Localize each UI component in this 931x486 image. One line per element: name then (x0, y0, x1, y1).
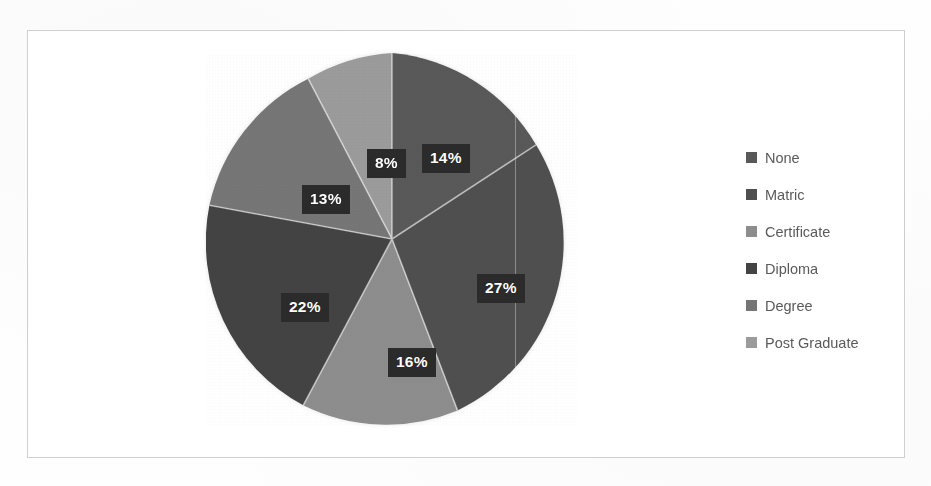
pie-slices (206, 53, 564, 425)
chart-frame: 14% 27% 16% 22% 13% 8% None Matric Certi… (27, 30, 905, 458)
legend-item-label: Post Graduate (765, 335, 859, 351)
legend-item-certificate[interactable]: Certificate (746, 213, 901, 250)
legend-item-label: Degree (765, 298, 813, 314)
legend-item-label: Matric (765, 187, 804, 203)
legend-item-post-graduate[interactable]: Post Graduate (746, 324, 901, 361)
legend-item-none[interactable]: None (746, 139, 901, 176)
data-label-post-graduate: 8% (367, 149, 406, 178)
legend-item-degree[interactable]: Degree (746, 287, 901, 324)
legend-item-matric[interactable]: Matric (746, 176, 901, 213)
legend-item-label: Certificate (765, 224, 830, 240)
chart-legend: None Matric Certificate Diploma Degree P… (746, 139, 901, 361)
legend-item-diploma[interactable]: Diploma (746, 250, 901, 287)
legend-swatch-icon (746, 152, 757, 163)
legend-swatch-icon (746, 337, 757, 348)
legend-item-label: Diploma (765, 261, 818, 277)
legend-swatch-icon (746, 263, 757, 274)
data-label-none: 14% (422, 144, 470, 173)
legend-swatch-icon (746, 226, 757, 237)
data-label-certificate: 16% (388, 348, 436, 377)
data-label-degree: 13% (302, 185, 350, 214)
legend-item-label: None (765, 150, 800, 166)
pie-plot-area: 14% 27% 16% 22% 13% 8% (28, 31, 728, 459)
data-label-matric: 27% (477, 274, 525, 303)
legend-swatch-icon (746, 300, 757, 311)
legend-swatch-icon (746, 189, 757, 200)
data-label-diploma: 22% (281, 293, 329, 322)
